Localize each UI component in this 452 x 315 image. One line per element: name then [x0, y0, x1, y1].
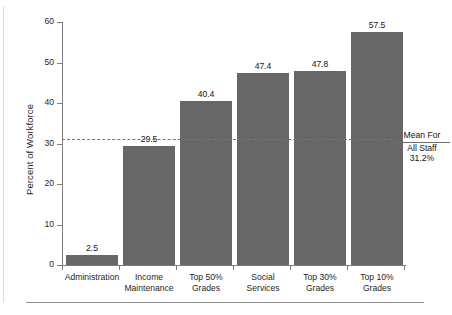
x-label-top-10-grades: Top 10% Grades — [345, 272, 409, 293]
y-tick-30: 30 — [57, 144, 62, 145]
x-label-administration-line1: Administration — [60, 272, 124, 283]
x-label-top-50-grades: Top 50% Grades — [174, 272, 238, 293]
x-label-top-30-grades-line1: Top 30% — [288, 272, 352, 283]
x-tick-1 — [119, 265, 120, 270]
x-tick-0 — [62, 265, 63, 270]
y-tick-50: 50 — [57, 63, 62, 64]
mean-reference-line — [62, 139, 392, 140]
y-tick-60: 60 — [57, 22, 62, 23]
bar-value-administration: 2.5 — [86, 243, 98, 253]
y-axis-line — [62, 22, 63, 266]
y-tick-40: 40 — [57, 103, 62, 104]
x-label-social-services-line2: Services — [231, 283, 295, 294]
x-tick-2 — [176, 265, 177, 270]
y-tick-label-30: 30 — [44, 138, 54, 148]
x-label-administration: Administration — [60, 272, 124, 283]
figure-frame-left-edge — [3, 6, 4, 302]
x-tick-5 — [347, 265, 348, 270]
bar-social-services[interactable]: 47.4 — [237, 73, 289, 265]
y-tick-10: 10 — [57, 225, 62, 226]
y-tick-20: 20 — [57, 184, 62, 185]
x-tick-4 — [290, 265, 291, 270]
x-label-top-50-grades-line2: Grades — [174, 283, 238, 294]
x-label-social-services-line1: Social — [231, 272, 295, 283]
y-axis-title: Percent of Workforce — [24, 60, 35, 240]
x-label-income-maintenance-line2: Maintenance — [117, 283, 181, 294]
y-tick-label-60: 60 — [44, 16, 54, 26]
bar-income-maintenance[interactable]: 29.5 — [123, 146, 175, 266]
mean-annotation-line1: Mean For — [394, 131, 450, 141]
y-tick-label-10: 10 — [44, 219, 54, 229]
x-label-top-10-grades-line2: Grades — [345, 283, 409, 294]
bar-value-top-30-grades: 47.8 — [312, 59, 329, 69]
x-label-top-30-grades: Top 30% Grades — [288, 272, 352, 293]
y-tick-label-50: 50 — [44, 57, 54, 67]
bar-value-social-services: 47.4 — [255, 61, 272, 71]
mean-annotation-line3: 31.2% — [394, 154, 450, 164]
y-tick-label-20: 20 — [44, 178, 54, 188]
plot-area: 0 10 20 30 40 50 60 2.5 2 — [62, 22, 406, 265]
mean-reference-annotation: Mean For All Staff 31.2% — [394, 131, 450, 163]
x-tick-6 — [404, 265, 405, 270]
x-tick-3 — [233, 265, 234, 270]
x-label-top-50-grades-line1: Top 50% — [174, 272, 238, 283]
x-label-social-services: Social Services — [231, 272, 295, 293]
y-tick-label-0: 0 — [49, 259, 54, 269]
figure-frame-bottom-rule — [26, 302, 424, 303]
x-label-income-maintenance-line1: Income — [117, 272, 181, 283]
y-tick-label-40: 40 — [44, 97, 54, 107]
x-axis-line — [62, 265, 406, 266]
bar-top-30-grades[interactable]: 47.8 — [294, 71, 346, 265]
bar-administration[interactable]: 2.5 — [66, 255, 118, 265]
x-label-top-10-grades-line1: Top 10% — [345, 272, 409, 283]
x-label-income-maintenance: Income Maintenance — [117, 272, 181, 293]
bar-top-50-grades[interactable]: 40.4 — [180, 101, 232, 265]
x-label-top-30-grades-line2: Grades — [288, 283, 352, 294]
bar-value-top-10-grades: 57.5 — [369, 20, 386, 30]
bar-value-top-50-grades: 40.4 — [198, 89, 215, 99]
bar-chart-figure: Percent of Workforce 0 10 20 30 40 50 60 — [0, 0, 452, 315]
